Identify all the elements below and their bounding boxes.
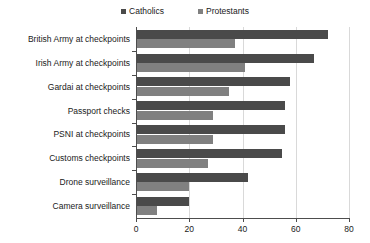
bar-protestants-6[interactable] (136, 182, 189, 191)
x-tick-mark (296, 218, 297, 222)
y-tick-mark (132, 170, 136, 171)
bar-catholics-5[interactable] (136, 149, 282, 158)
category-label: Customs checkpoints (0, 153, 130, 163)
category-label: PSNI at checkpoints (0, 129, 130, 139)
bar-catholics-3[interactable] (136, 101, 285, 110)
x-axis-tick-label: 80 (337, 224, 361, 234)
bar-catholics-4[interactable] (136, 125, 285, 134)
chart-legend: Catholics Protestants (0, 4, 370, 18)
category-label: Gardai at checkpoints (0, 82, 130, 92)
bar-catholics-0[interactable] (136, 30, 328, 39)
x-tick-mark (189, 218, 190, 222)
category-label: British Army at checkpoints (0, 34, 130, 44)
bar-catholics-2[interactable] (136, 77, 290, 86)
legend-label-catholics: Catholics (129, 7, 164, 16)
bar-catholics-6[interactable] (136, 173, 248, 182)
y-tick-mark (132, 99, 136, 100)
category-axis-labels: British Army at checkpointsIrish Army at… (0, 27, 130, 218)
bar-protestants-5[interactable] (136, 159, 208, 168)
legend-label-protestants: Protestants (206, 7, 249, 16)
x-axis-tick-label: 0 (124, 224, 148, 234)
x-axis-tick-label: 60 (284, 224, 308, 234)
x-tick-mark (243, 218, 244, 222)
legend-swatch-catholics (121, 9, 126, 14)
x-tick-mark (136, 218, 137, 222)
bar-protestants-0[interactable] (136, 39, 235, 48)
category-label: Irish Army at checkpoints (0, 58, 130, 68)
y-axis-line (136, 27, 137, 218)
bar-protestants-4[interactable] (136, 135, 213, 144)
bar-protestants-3[interactable] (136, 111, 213, 120)
legend-swatch-protestants (198, 9, 203, 14)
y-tick-mark (132, 75, 136, 76)
y-tick-mark (132, 123, 136, 124)
bar-protestants-1[interactable] (136, 63, 245, 72)
bar-chart: Catholics Protestants British Army at ch… (0, 0, 370, 243)
x-tick-mark (349, 218, 350, 222)
y-tick-mark (132, 146, 136, 147)
y-tick-mark (132, 194, 136, 195)
gridline (349, 27, 350, 218)
bar-protestants-2[interactable] (136, 87, 229, 96)
y-tick-mark (132, 51, 136, 52)
category-label: Drone surveillance (0, 177, 130, 187)
x-axis-tick-label: 40 (231, 224, 255, 234)
legend-entry-catholics[interactable]: Catholics (121, 7, 164, 16)
category-label: Passport checks (0, 106, 130, 116)
plot-area (136, 27, 349, 218)
bar-protestants-7[interactable] (136, 206, 157, 215)
bar-catholics-1[interactable] (136, 54, 314, 63)
bar-catholics-7[interactable] (136, 197, 189, 206)
legend-entry-protestants[interactable]: Protestants (198, 7, 249, 16)
x-axis-tick-label: 20 (177, 224, 201, 234)
category-label: Camera surveillance (0, 201, 130, 211)
